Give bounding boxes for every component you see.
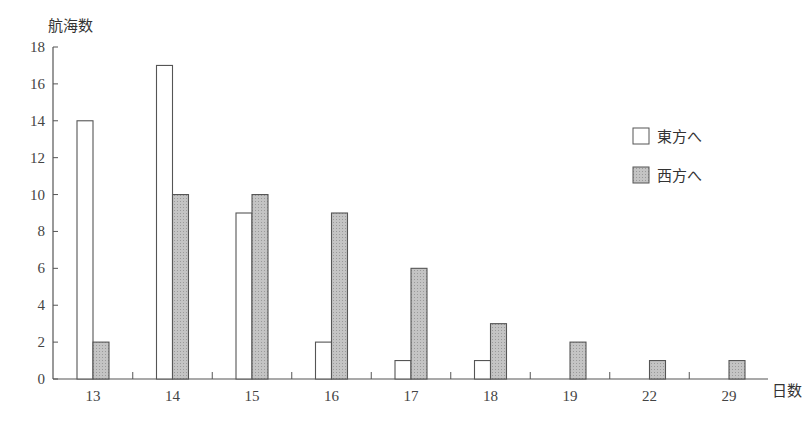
bar-west xyxy=(570,342,586,379)
bar-west xyxy=(173,195,189,379)
x-tick-label: 17 xyxy=(404,388,420,404)
y-tick-label: 0 xyxy=(38,371,46,387)
bar-east xyxy=(475,361,491,379)
x-tick-label: 13 xyxy=(86,388,101,404)
y-axis-title: 航海数 xyxy=(48,17,93,35)
bar-east xyxy=(395,361,411,379)
bar-west xyxy=(252,195,268,379)
bars xyxy=(77,65,745,379)
legend-swatch-east xyxy=(633,128,649,144)
y-tick-label: 18 xyxy=(30,39,45,55)
y-tick-label: 16 xyxy=(30,76,46,92)
y-tick-label: 8 xyxy=(38,223,46,239)
bar-west xyxy=(411,268,427,379)
bar-west xyxy=(93,342,109,379)
bar-east xyxy=(157,65,173,379)
x-tick-label: 14 xyxy=(165,388,181,404)
y-tick-label: 10 xyxy=(30,187,45,203)
bar-west xyxy=(729,361,745,379)
bar-west xyxy=(332,213,348,379)
bar-west xyxy=(650,361,666,379)
x-tick-label: 18 xyxy=(483,388,498,404)
legend-swatch-west xyxy=(633,167,649,183)
x-tick-label: 22 xyxy=(642,388,657,404)
figure-caption-cutoff xyxy=(120,418,720,427)
y-tick-label: 6 xyxy=(38,260,46,276)
x-tick-label: 19 xyxy=(563,388,578,404)
y-axis: 024681012141618 xyxy=(30,39,58,387)
x-axis-title: 日数 xyxy=(772,382,802,400)
legend-label-west: 西方へ xyxy=(657,167,702,185)
bar-east xyxy=(236,213,252,379)
x-tick-label: 15 xyxy=(245,388,260,404)
bar-east xyxy=(77,121,93,379)
y-tick-label: 14 xyxy=(30,113,46,129)
bar-chart: 024681012141618 131415161718192229 航海数 日… xyxy=(0,0,803,427)
bar-east xyxy=(316,342,332,379)
y-tick-label: 4 xyxy=(38,297,46,313)
x-tick-label: 29 xyxy=(722,388,737,404)
legend: 東方へ 西方へ xyxy=(633,128,702,185)
y-tick-label: 12 xyxy=(30,150,45,166)
y-tick-label: 2 xyxy=(38,334,46,350)
x-tick-label: 16 xyxy=(324,388,340,404)
legend-label-east: 東方へ xyxy=(657,128,702,146)
bar-west xyxy=(491,324,507,379)
